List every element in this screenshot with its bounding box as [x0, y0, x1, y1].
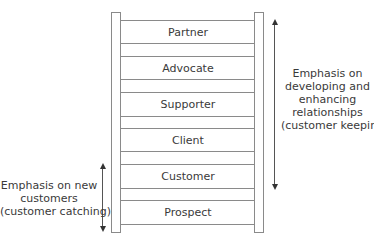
note-line: enhancing	[281, 93, 374, 106]
note-line: Emphasis on	[281, 67, 374, 80]
note-line: (customer catching)	[0, 205, 98, 218]
rung-customer-top	[121, 164, 255, 165]
note-line: relationships	[281, 106, 374, 119]
customer-keeping-note: Emphasis on developing and enhancing rel…	[281, 67, 374, 132]
step-prospect: Prospect	[121, 206, 255, 219]
note-line: Emphasis on new	[0, 179, 98, 192]
arrow-head-down-icon	[100, 226, 106, 232]
rung-prospect-bottom	[121, 224, 255, 225]
step-customer: Customer	[121, 170, 255, 183]
customer-catching-note: Emphasis on new customers (customer catc…	[0, 179, 98, 218]
ladder-left-rail	[111, 12, 121, 233]
arrow-head-up-icon	[100, 163, 106, 169]
rung-client-bottom	[121, 151, 255, 152]
note-line: customers	[0, 192, 98, 205]
arrow-head-down-icon	[272, 184, 278, 190]
step-client: Client	[121, 134, 255, 147]
rung-supporter-top	[121, 92, 255, 93]
rung-partner-top	[121, 20, 255, 21]
note-line: developing and	[281, 80, 374, 93]
rung-supporter-bottom	[121, 116, 255, 117]
rung-client-top	[121, 128, 255, 129]
catching-double-arrow-icon	[102, 168, 103, 227]
ladder-right-rail	[254, 12, 264, 233]
rung-customer-bottom	[121, 188, 255, 189]
rung-advocate-bottom	[121, 79, 255, 80]
step-partner: Partner	[121, 26, 255, 39]
arrow-head-up-icon	[272, 19, 278, 25]
step-advocate: Advocate	[121, 62, 255, 75]
rung-prospect-top	[121, 200, 255, 201]
rung-partner-bottom	[121, 43, 255, 44]
keeping-double-arrow-icon	[274, 24, 275, 185]
rung-advocate-top	[121, 56, 255, 57]
note-line: (customer keeping)	[281, 119, 374, 132]
step-supporter: Supporter	[121, 98, 255, 111]
